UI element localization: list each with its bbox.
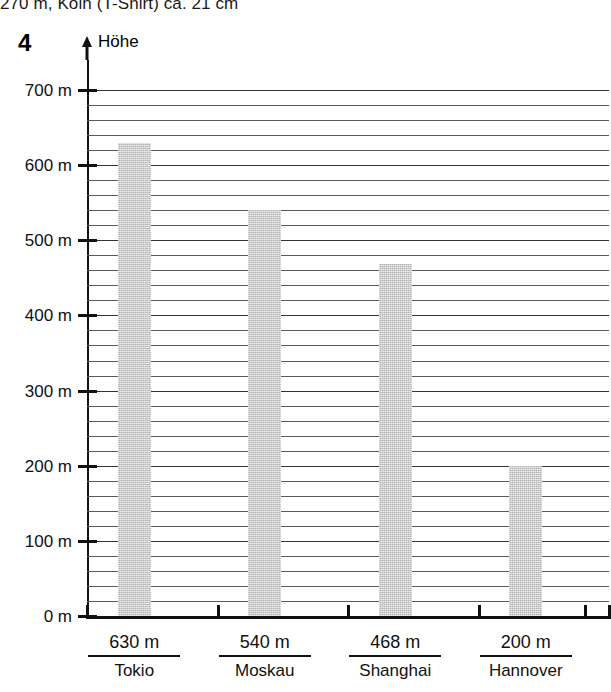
- gridline-minor: [87, 225, 609, 226]
- x-axis-tick: [86, 605, 89, 619]
- page-header-text: 270 m, Köln (T-Shirt) ca. 21 cm: [0, 0, 609, 14]
- category-value-underline: [88, 655, 180, 657]
- chart-bar: [118, 143, 151, 616]
- chart-bar: [379, 264, 412, 616]
- category-value-label: 630 m: [75, 630, 193, 654]
- category-value-underline: [219, 655, 311, 657]
- category-value-underline: [480, 655, 572, 657]
- y-axis-label: Höhe: [98, 32, 139, 52]
- gridline-minor: [87, 345, 609, 346]
- gridline-minor: [87, 361, 609, 362]
- gridline-minor: [87, 255, 609, 256]
- category-value-label: 200 m: [467, 630, 585, 654]
- y-axis-tick: [78, 239, 97, 242]
- x-axis-tick: [217, 605, 220, 619]
- y-axis-tick: [78, 540, 97, 543]
- y-axis-tick-label: 0 m: [0, 608, 72, 625]
- x-axis-tick: [584, 605, 587, 619]
- category-value-label: 468 m: [336, 630, 454, 654]
- category-label-group: 630 mTokio: [75, 630, 193, 682]
- category-value-label: 540 m: [206, 630, 324, 654]
- gridline-major: [87, 391, 609, 392]
- y-axis-tick: [78, 465, 97, 468]
- gridline-minor: [87, 421, 609, 422]
- category-name-label: Moskau: [206, 660, 324, 682]
- exercise-number: 4: [18, 30, 31, 56]
- gridline-minor: [87, 150, 609, 151]
- gridline-minor: [87, 105, 609, 106]
- category-label-group: 540 mMoskau: [206, 630, 324, 682]
- y-axis-tick: [78, 164, 97, 167]
- gridline-minor: [87, 300, 609, 301]
- x-axis-tick: [478, 605, 481, 619]
- category-name-label: Tokio: [75, 660, 193, 682]
- y-axis-tick-label: 600 m: [0, 157, 72, 174]
- y-axis-tick-label: 700 m: [0, 82, 72, 99]
- gridline-minor: [87, 406, 609, 407]
- y-axis-tick-label: 200 m: [0, 458, 72, 475]
- y-axis-line: [87, 60, 89, 618]
- gridline-major: [87, 315, 609, 316]
- gridline-minor: [87, 451, 609, 452]
- gridline-minor: [87, 436, 609, 437]
- gridline-minor: [87, 376, 609, 377]
- y-axis-tick-label: 300 m: [0, 383, 72, 400]
- x-axis-tick: [347, 605, 350, 619]
- y-axis-tick: [78, 390, 97, 393]
- gridline-minor: [87, 270, 609, 271]
- gridline-major: [87, 165, 609, 166]
- category-label-group: 200 mHannover: [467, 630, 585, 682]
- y-axis-tick: [78, 89, 97, 92]
- y-axis-tick-label: 400 m: [0, 307, 72, 324]
- y-axis-tick-label: 100 m: [0, 533, 72, 550]
- chart-plot-area: 700 m600 m500 m400 m300 m200 m100 m0 m: [0, 60, 609, 625]
- gridline-minor: [87, 210, 609, 211]
- gridline-minor: [87, 330, 609, 331]
- gridline-minor: [87, 180, 609, 181]
- gridline-major: [87, 90, 609, 91]
- gridline-minor: [87, 120, 609, 121]
- y-axis-tick-label: 500 m: [0, 232, 72, 249]
- category-name-label: Hannover: [467, 660, 585, 682]
- y-axis-tick: [78, 314, 97, 317]
- category-value-underline: [349, 655, 441, 657]
- gridline-major: [87, 240, 609, 241]
- category-name-label: Shanghai: [336, 660, 454, 682]
- gridline-minor: [87, 285, 609, 286]
- gridline-minor: [87, 195, 609, 196]
- chart-bar: [248, 210, 281, 616]
- category-label-group: 468 mShanghai: [336, 630, 454, 682]
- chart-bar: [509, 466, 542, 616]
- up-arrow-icon: [80, 36, 94, 60]
- gridline-minor: [87, 135, 609, 136]
